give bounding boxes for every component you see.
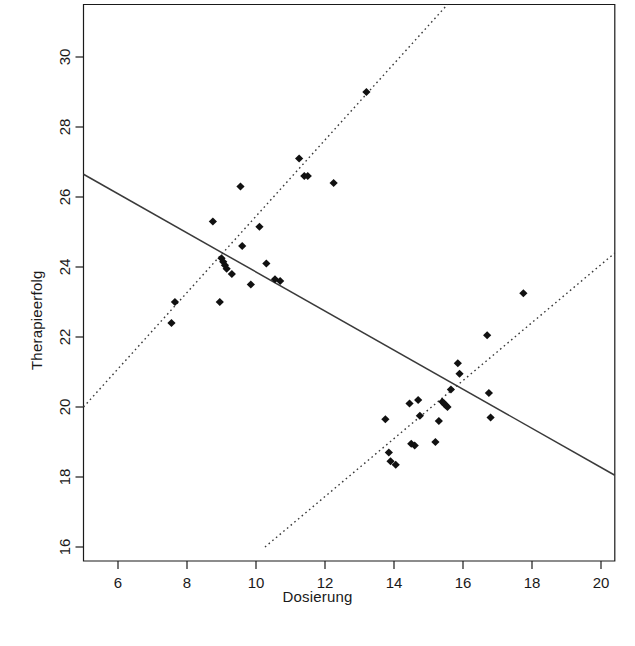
data-point — [362, 88, 370, 96]
y-tick-label: 18 — [55, 469, 72, 486]
regression-lines — [84, 5, 615, 548]
data-point — [295, 154, 303, 162]
scatter-plot-figure: Dosierung Therapieerfolg 68101214161820 … — [0, 0, 635, 646]
data-point — [255, 223, 263, 231]
regression-line-group-2-regression — [265, 253, 615, 547]
plot-canvas — [0, 0, 635, 646]
data-point — [216, 298, 224, 306]
y-tick-label: 26 — [55, 189, 72, 206]
regression-line-overall-regression — [84, 174, 615, 475]
y-tick-label: 22 — [55, 329, 72, 346]
data-point — [262, 259, 270, 267]
data-point — [236, 182, 244, 190]
data-point — [435, 417, 443, 425]
data-point — [247, 280, 255, 288]
data-point — [416, 412, 424, 420]
x-tick-label: 8 — [183, 574, 191, 591]
y-tick-label: 28 — [55, 119, 72, 136]
data-point — [209, 217, 217, 225]
y-axis-title: Therapieerfolg — [28, 270, 45, 370]
data-point — [330, 179, 338, 187]
x-tick-label: 20 — [593, 574, 610, 591]
data-point — [414, 396, 422, 404]
data-point — [485, 389, 493, 397]
x-tick-label: 14 — [386, 574, 403, 591]
data-point — [487, 413, 495, 421]
data-point — [455, 370, 463, 378]
y-tick-label: 30 — [55, 49, 72, 66]
data-point — [385, 448, 393, 456]
data-point — [381, 415, 389, 423]
plot-frame — [84, 5, 615, 562]
axis-ticks — [76, 57, 602, 569]
x-tick-label: 12 — [317, 574, 334, 591]
y-tick-label: 16 — [55, 539, 72, 556]
data-points — [167, 88, 527, 469]
data-point — [431, 438, 439, 446]
data-point — [454, 359, 462, 367]
data-point — [171, 298, 179, 306]
x-tick-label: 16 — [455, 574, 472, 591]
x-tick-label: 6 — [114, 574, 122, 591]
x-tick-label: 10 — [248, 574, 265, 591]
data-point — [519, 289, 527, 297]
data-point — [483, 331, 491, 339]
data-point — [228, 270, 236, 278]
data-point — [447, 385, 455, 393]
data-point — [167, 319, 175, 327]
y-tick-label: 24 — [55, 259, 72, 276]
y-tick-label: 20 — [55, 399, 72, 416]
data-point — [405, 399, 413, 407]
x-tick-label: 18 — [524, 574, 541, 591]
data-point — [238, 242, 246, 250]
